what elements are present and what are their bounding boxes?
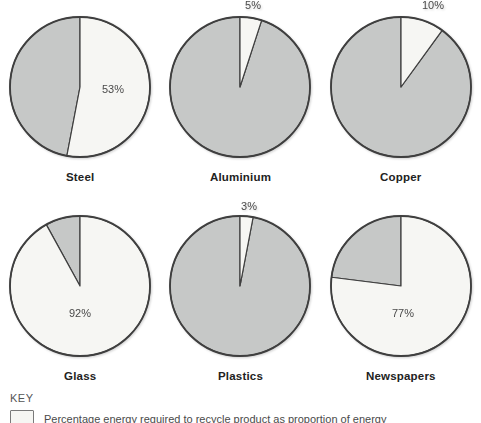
pie-title: Newspapers bbox=[366, 370, 436, 382]
pie-slice-gray bbox=[10, 17, 80, 156]
pie-chart-aluminium: 5%Aluminium bbox=[160, 12, 320, 183]
pie-title: Plastics bbox=[218, 370, 263, 382]
pie-chart-copper: 10%Copper bbox=[321, 12, 481, 183]
pie-title: Aluminium bbox=[210, 171, 271, 183]
pie-chart-glass: 92%Glass bbox=[0, 211, 160, 382]
pie-slice-gray bbox=[331, 216, 400, 286]
pie-svg: 10% bbox=[326, 12, 476, 162]
pie-percent-label: 92% bbox=[69, 307, 91, 319]
key-text: Percentage energy required to recycle pr… bbox=[44, 410, 386, 423]
key-row: Percentage energy required to recycle pr… bbox=[10, 410, 481, 423]
pie-chart-steel: 53%Steel bbox=[0, 12, 160, 183]
pie-title: Copper bbox=[380, 171, 421, 183]
pie-svg: 92% bbox=[5, 211, 155, 361]
pie-percent-label: 77% bbox=[392, 307, 414, 319]
key-section: KEY Percentage energy required to recycl… bbox=[10, 392, 481, 423]
pie-percent-label: 10% bbox=[422, 0, 444, 11]
key-heading: KEY bbox=[10, 392, 481, 404]
pie-svg: 5% bbox=[165, 12, 315, 162]
pie-svg: 53% bbox=[5, 12, 155, 162]
pie-percent-label: 3% bbox=[242, 200, 258, 212]
key-swatch-light-icon bbox=[10, 410, 34, 423]
pie-svg: 3% bbox=[165, 211, 315, 361]
pie-chart-plastics: 3%Plastics bbox=[160, 211, 320, 382]
pie-chart-newspapers: 77%Newspapers bbox=[321, 211, 481, 382]
pie-title: Steel bbox=[66, 171, 95, 183]
pie-svg: 77% bbox=[326, 211, 476, 361]
recycling-energy-pie-figure: 53%Steel5%Aluminium10%Copper92%Glass3%Pl… bbox=[0, 0, 481, 423]
pie-title: Glass bbox=[64, 370, 96, 382]
pie-percent-label: 5% bbox=[246, 0, 262, 11]
pie-grid: 53%Steel5%Aluminium10%Copper92%Glass3%Pl… bbox=[0, 0, 481, 382]
pie-percent-label: 53% bbox=[102, 83, 124, 95]
